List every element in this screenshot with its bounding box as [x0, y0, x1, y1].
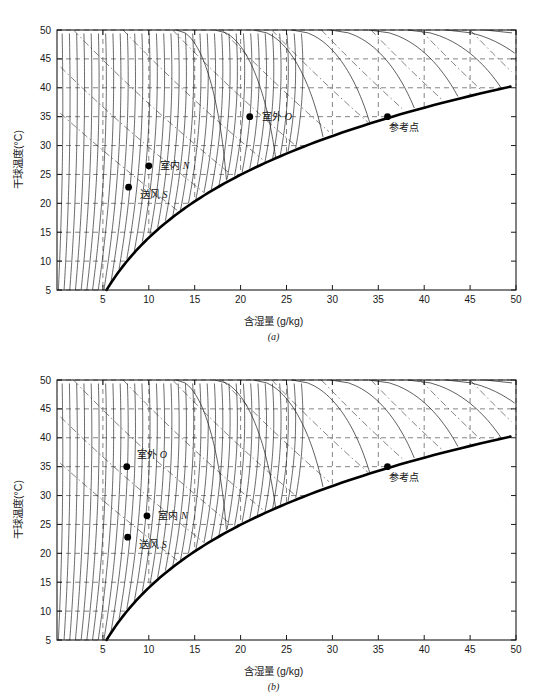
state-point-label-outdoor: 室外O: [262, 110, 292, 122]
plot-area-a: 51015202530354045505101520253035404550室外…: [0, 0, 547, 320]
psychrometric-chart-b: 51015202530354045505101520253035404550室外…: [0, 350, 547, 699]
svg-text:35: 35: [40, 461, 52, 472]
svg-text:25: 25: [40, 519, 52, 530]
state-point-reference-point: [384, 113, 391, 120]
svg-text:5: 5: [100, 294, 106, 305]
svg-text:50: 50: [510, 644, 522, 655]
svg-text:20: 20: [40, 548, 52, 559]
state-point-indoor: [144, 512, 151, 519]
svg-text:10: 10: [40, 256, 52, 267]
state-point-label-reference-point: 参考点: [389, 471, 419, 483]
svg-text:5: 5: [100, 644, 106, 655]
svg-text:10: 10: [40, 606, 52, 617]
svg-text:30: 30: [327, 644, 339, 655]
y-axis-title-b: 干球温度(°C): [10, 455, 25, 565]
svg-text:20: 20: [40, 198, 52, 209]
svg-text:15: 15: [189, 294, 201, 305]
svg-text:35: 35: [40, 111, 52, 122]
state-point-label-indoor: 室内N: [158, 509, 189, 521]
svg-text:5: 5: [45, 635, 51, 646]
state-point-supply-air: [124, 534, 131, 541]
svg-text:40: 40: [419, 644, 431, 655]
svg-text:15: 15: [40, 227, 52, 238]
svg-text:45: 45: [465, 644, 477, 655]
state-point-reference-point: [384, 463, 391, 470]
state-point-label-reference-point: 参考点: [389, 121, 419, 133]
state-point-label-indoor: 室内N: [160, 159, 191, 171]
svg-text:45: 45: [40, 403, 52, 414]
svg-text:50: 50: [40, 25, 52, 36]
svg-text:30: 30: [40, 140, 52, 151]
svg-text:20: 20: [235, 644, 247, 655]
svg-text:15: 15: [40, 577, 52, 588]
psychrometric-chart-a: 51015202530354045505101520253035404550室外…: [0, 0, 547, 350]
state-point-label-supply-air: 送风S: [140, 188, 168, 200]
svg-text:35: 35: [373, 294, 385, 305]
chart-canvas-b: 51015202530354045505101520253035404550室外…: [0, 350, 547, 670]
svg-text:40: 40: [40, 82, 52, 93]
svg-text:30: 30: [40, 490, 52, 501]
svg-text:40: 40: [419, 294, 431, 305]
svg-text:35: 35: [373, 644, 385, 655]
svg-text:45: 45: [465, 294, 477, 305]
svg-text:10: 10: [143, 644, 155, 655]
x-axis-title-a: 含湿量 (g/kg): [0, 313, 547, 328]
chart-canvas-a: 51015202530354045505101520253035404550室外…: [0, 0, 547, 320]
svg-text:50: 50: [40, 375, 52, 386]
subfigure-caption-a: (a): [0, 331, 547, 342]
y-axis-title-a: 干球温度(°C): [10, 105, 25, 215]
subfigure-caption-b: (b): [0, 681, 547, 692]
svg-text:25: 25: [281, 644, 293, 655]
state-point-label-supply-air: 送风S: [139, 538, 167, 550]
state-point-indoor: [145, 162, 152, 169]
svg-text:5: 5: [45, 285, 51, 296]
state-point-label-outdoor: 室外O: [137, 448, 167, 460]
svg-text:15: 15: [189, 644, 201, 655]
svg-text:30: 30: [327, 294, 339, 305]
state-point-outdoor: [246, 113, 253, 120]
svg-text:10: 10: [143, 294, 155, 305]
state-point-supply-air: [125, 184, 132, 191]
svg-text:40: 40: [40, 432, 52, 443]
svg-text:20: 20: [235, 294, 247, 305]
plot-area-b: 51015202530354045505101520253035404550室外…: [0, 350, 547, 670]
svg-text:25: 25: [281, 294, 293, 305]
svg-text:45: 45: [40, 53, 52, 64]
svg-text:50: 50: [510, 294, 522, 305]
state-point-outdoor: [123, 463, 130, 470]
x-axis-title-b: 含湿量 (g/kg): [0, 663, 547, 678]
svg-text:25: 25: [40, 169, 52, 180]
